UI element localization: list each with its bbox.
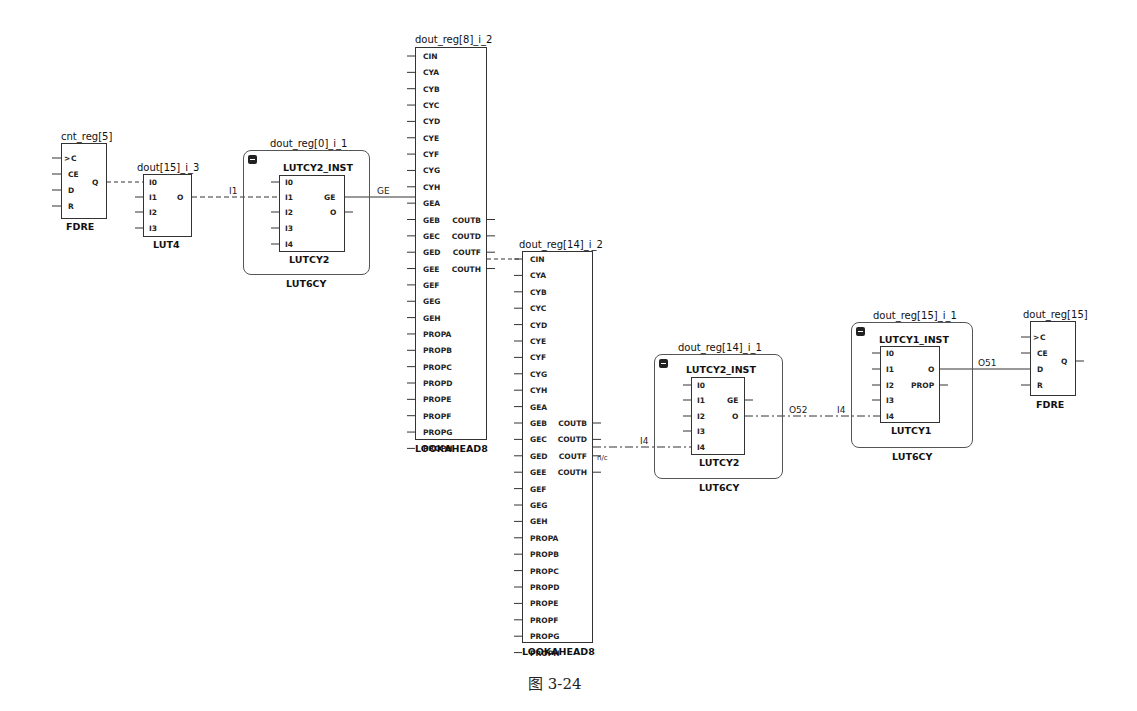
pin-i2: I2 xyxy=(285,208,293,217)
cell-name-lut4: dout[15]_i_3 xyxy=(137,162,199,173)
pin-cyg: CYG xyxy=(423,166,440,175)
lutcy1-cell[interactable]: I0 I1 I2 I3 I4 O PROP xyxy=(880,346,940,423)
pin-cin: CIN xyxy=(530,255,545,264)
pin-i3: I3 xyxy=(697,427,705,436)
pin-i3: I3 xyxy=(886,396,894,405)
pin-ge: GE xyxy=(324,193,335,202)
pin-i1: I1 xyxy=(886,365,894,374)
pin-propg: PROPG xyxy=(530,632,559,641)
cell-type-lut6cy: LUT6CY xyxy=(286,278,326,289)
pin-cyb: CYB xyxy=(423,85,440,94)
fdre-dout-reg15[interactable]: > C CE D R Q xyxy=(1030,321,1076,396)
pin-coutb: COUTB xyxy=(558,419,587,428)
cell-type-fdre: FDRE xyxy=(1036,399,1064,410)
pin-cye: CYE xyxy=(423,134,439,143)
pin-propa: PROPA xyxy=(530,534,558,543)
pin-d: D xyxy=(1037,365,1043,374)
cell-name-lut6cy-14: dout_reg[14]_i_1 xyxy=(678,342,762,353)
pin-gee: GEE xyxy=(530,468,546,477)
pin-cye: CYE xyxy=(530,337,546,346)
lookahead8-cell-8[interactable]: CINCYACYBCYCCYDCYECYFCYGCYHGEAGEBGECGEDG… xyxy=(415,47,487,440)
pin-cyh: CYH xyxy=(530,386,547,395)
pin-geh: GEH xyxy=(423,314,441,323)
pin-coutf: COUTF xyxy=(559,452,587,461)
lutcy2-cell[interactable]: I0 I1 I2 I3 I4 GE O xyxy=(279,175,345,252)
pin-cyd: CYD xyxy=(423,117,440,126)
pin-cin: CIN xyxy=(423,52,438,61)
pin-cyc: CYC xyxy=(530,304,546,313)
inst-name: LUTCY1_INST xyxy=(879,334,949,345)
pin-cyd: CYD xyxy=(530,321,547,330)
pin-gef: GEF xyxy=(530,485,546,494)
pin-gea: GEA xyxy=(530,403,547,412)
pin-ged: GED xyxy=(530,452,548,461)
pin-coutf: COUTF xyxy=(453,248,481,257)
cell-name-cnt-reg5: cnt_reg[5] xyxy=(61,131,112,142)
pin-o: O xyxy=(732,412,738,421)
pin-prop: PROP xyxy=(911,381,934,390)
inst-type: LUTCY1 xyxy=(891,425,931,436)
pin-propg: PROPG xyxy=(423,428,452,437)
pin-i2: I2 xyxy=(886,381,894,390)
pin-propc: PROPC xyxy=(530,567,559,576)
cell-name-lookahead-14: dout_reg[14]_i_2 xyxy=(519,239,603,250)
pin-propf: PROPF xyxy=(530,616,558,625)
fdre-cnt-reg5[interactable]: > C CE D R Q xyxy=(61,143,107,219)
pin-i0: I0 xyxy=(149,178,157,187)
inst-type: LUTCY2 xyxy=(289,254,329,265)
pin-i1: I1 xyxy=(285,193,293,202)
collapse-icon[interactable] xyxy=(248,155,257,164)
pin-geg: GEG xyxy=(530,501,547,510)
net-label-i4: I4 xyxy=(837,405,845,415)
pin-c: C xyxy=(1040,333,1046,342)
pin-i0: I0 xyxy=(886,349,894,358)
pin-ged: GED xyxy=(423,248,441,257)
pin-coutd: COUTD xyxy=(558,435,587,444)
clock-pin-icon: > xyxy=(1033,333,1039,342)
cell-name-dout-reg15: dout_reg[15] xyxy=(1023,309,1088,320)
net-label-o52: O52 xyxy=(789,405,808,415)
pin-cya: CYA xyxy=(530,271,546,280)
pin-r: R xyxy=(1037,381,1043,390)
cell-type-lut6cy: LUT6CY xyxy=(892,451,932,462)
inst-name: LUTCY2_INST xyxy=(686,364,756,375)
pin-q: Q xyxy=(92,178,98,187)
pin-propd: PROPD xyxy=(423,379,452,388)
pin-i4: I4 xyxy=(285,240,293,249)
pin-geb: GEB xyxy=(423,216,440,225)
pin-gef: GEF xyxy=(423,281,439,290)
pin-gee: GEE xyxy=(423,265,439,274)
lookahead8-cell-14[interactable]: CINCYACYBCYCCYDCYECYFCYGCYHGEAGEBGECGEDG… xyxy=(522,251,593,643)
collapse-icon[interactable] xyxy=(856,327,865,336)
pin-d: D xyxy=(68,186,74,195)
pin-ce: CE xyxy=(68,170,79,179)
clock-pin-icon: > xyxy=(64,154,70,163)
pin-couth: COUTH xyxy=(452,265,481,274)
collapse-icon[interactable] xyxy=(659,359,668,368)
pin-couth: COUTH xyxy=(558,468,587,477)
pin-geb: GEB xyxy=(530,419,547,428)
pin-propc: PROPC xyxy=(423,363,452,372)
pin-c: C xyxy=(71,154,77,163)
pin-o: O xyxy=(330,208,336,217)
pin-ce: CE xyxy=(1037,349,1048,358)
lut4-cell[interactable]: I0 I1 I2 I3 O xyxy=(143,174,192,237)
pin-i2: I2 xyxy=(149,208,157,217)
lutcy2-cell[interactable]: I0 I1 I2 I3 I4 GE O xyxy=(691,377,745,455)
cell-type-lut4: LUT4 xyxy=(153,239,180,250)
inst-type: LUTCY2 xyxy=(699,457,739,468)
pin-gec: GEC xyxy=(530,435,547,444)
pin-cyh: CYH xyxy=(423,183,440,192)
cell-type-lookahead8: LOOKAHEAD8 xyxy=(522,646,595,657)
pin-i2: I2 xyxy=(697,412,705,421)
pin-propb: PROPB xyxy=(530,550,559,559)
pin-coutb: COUTB xyxy=(452,216,481,225)
net-label-ge: GE xyxy=(377,186,390,196)
pin-o: O xyxy=(177,193,183,202)
pin-gec: GEC xyxy=(423,232,440,241)
pin-o: O xyxy=(928,365,934,374)
cell-name-lut6cy-15: dout_reg[15]_i_1 xyxy=(873,310,957,321)
net-label-i4: I4 xyxy=(640,436,648,446)
pin-ge: GE xyxy=(727,396,738,405)
pin-propa: PROPA xyxy=(423,330,451,339)
